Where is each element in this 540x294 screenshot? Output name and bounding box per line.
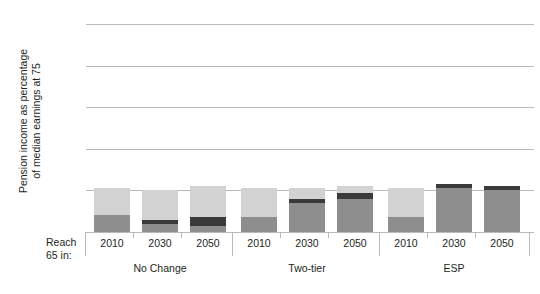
chart-container: Pension income as percentage of median e…	[0, 0, 540, 294]
bar-segment-bottom-segment	[142, 224, 178, 232]
x-tick-label-6: 2010	[379, 237, 433, 249]
bar-segment-top-segment	[190, 186, 226, 217]
x-tick-mark-2	[181, 232, 182, 238]
bar-esp-2050	[484, 186, 520, 232]
gridline-80	[86, 66, 534, 67]
bar-no-change-2010	[94, 188, 130, 232]
bar-segment-bottom-segment	[388, 217, 424, 232]
x-tick-mark-7	[427, 232, 428, 238]
bar-no-change-2050	[190, 186, 226, 232]
x-tick-label-1: 2030	[133, 237, 187, 249]
plot-area: 100% 80% 60% 40% 20% 0%	[86, 24, 534, 232]
bar-no-change-2030	[142, 190, 178, 232]
bar-segment-middle-segment	[190, 217, 226, 225]
x-tick-label-3: 2010	[232, 237, 286, 249]
bar-segment-top-segment	[142, 190, 178, 219]
bar-esp-2030	[436, 184, 472, 232]
bar-segment-top-segment	[94, 188, 130, 215]
bar-two-tier-2050	[337, 186, 373, 232]
gridline-100	[86, 24, 534, 25]
x-tick-mark-4	[280, 232, 281, 238]
bar-two-tier-2030	[289, 188, 325, 232]
y-axis-title: Pension income as percentage of median e…	[17, 6, 43, 236]
x-tick-label-8: 2050	[475, 237, 529, 249]
bar-segment-top-segment	[388, 188, 424, 217]
y-axis-title-container: Pension income as percentage of median e…	[0, 0, 40, 240]
x-group-label-no-change: No Change	[85, 262, 235, 274]
bar-segment-top-segment	[241, 188, 277, 217]
x-tick-mark-1	[133, 232, 134, 238]
bar-segment-bottom-segment	[289, 203, 325, 232]
x-tick-label-4: 2030	[280, 237, 334, 249]
gridline-60	[86, 107, 534, 108]
bar-esp-2010	[388, 188, 424, 232]
bar-segment-top-segment	[289, 188, 325, 198]
bar-segment-bottom-segment	[436, 188, 472, 232]
x-tick-mark-6	[379, 232, 380, 256]
x-tick-mark-3	[232, 232, 233, 256]
x-tick-label-7: 2030	[427, 237, 481, 249]
bar-segment-bottom-segment	[241, 217, 277, 232]
bar-segment-bottom-segment	[94, 215, 130, 232]
x-axis-title: Reach 65 in:	[46, 236, 90, 261]
x-tick-label-0: 2010	[85, 237, 139, 249]
x-tick-label-5: 2050	[328, 237, 382, 249]
x-tick-mark-5	[328, 232, 329, 238]
gridline-40	[86, 149, 534, 150]
bar-segment-bottom-segment	[484, 190, 520, 232]
x-group-label-esp: ESP	[379, 262, 529, 274]
x-group-label-two-tier: Two-tier	[232, 262, 382, 274]
x-tick-mark-9	[529, 232, 530, 256]
bar-segment-bottom-segment	[337, 199, 373, 232]
x-axis-baseline	[86, 232, 534, 233]
x-tick-mark-8	[475, 232, 476, 238]
bar-two-tier-2010	[241, 188, 277, 232]
x-tick-mark-0	[85, 232, 86, 256]
x-tick-label-2: 2050	[181, 237, 235, 249]
